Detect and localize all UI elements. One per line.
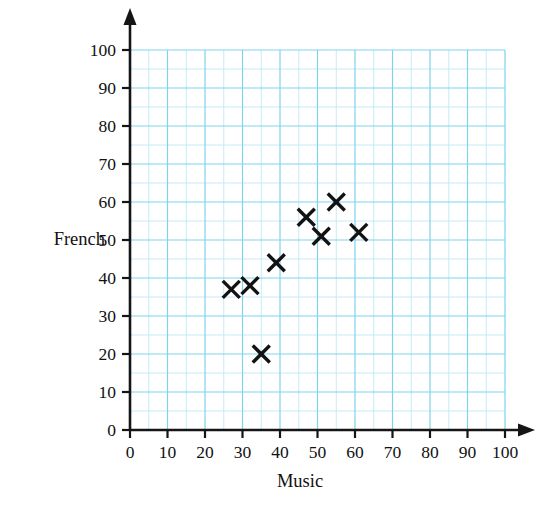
x-tick-label: 60	[346, 442, 364, 462]
y-tick-label: 30	[99, 306, 117, 326]
x-axis-title: Music	[277, 471, 323, 491]
data-point-cross	[242, 277, 259, 294]
y-tick-label: 100	[90, 40, 117, 60]
x-tick-label: 20	[196, 442, 214, 462]
data-point-cross	[268, 254, 285, 271]
data-point-cross	[298, 209, 315, 226]
y-tick-label: 0	[107, 420, 116, 440]
x-tick-label: 90	[459, 442, 477, 462]
y-tick-label: 60	[99, 192, 117, 212]
data-point-cross	[223, 281, 240, 298]
y-tick-label: 10	[99, 382, 117, 402]
x-tick-label: 30	[234, 442, 252, 462]
x-tick-label: 50	[309, 442, 327, 462]
x-tick-label: 0	[126, 442, 135, 462]
y-tick-label: 80	[99, 116, 117, 136]
y-tick-label: 40	[99, 268, 117, 288]
y-axis-title: French	[54, 229, 105, 249]
x-tick-label: 70	[384, 442, 402, 462]
y-tick-label: 90	[99, 78, 117, 98]
plot-canvas: 0102030405060708090100 01020304050607080…	[0, 0, 540, 507]
y-tick-label: 20	[99, 344, 117, 364]
scatter-plot-chart: 0102030405060708090100 01020304050607080…	[0, 0, 540, 507]
data-point-cross	[313, 228, 330, 245]
x-tick-label: 40	[271, 442, 289, 462]
data-point-cross	[350, 224, 367, 241]
x-tick-label: 100	[492, 442, 519, 462]
x-axis-tick-labels: 0102030405060708090100	[126, 442, 519, 462]
x-tick-label: 80	[421, 442, 439, 462]
axes	[124, 8, 536, 437]
y-tick-label: 70	[99, 154, 117, 174]
x-tick-label: 10	[159, 442, 177, 462]
